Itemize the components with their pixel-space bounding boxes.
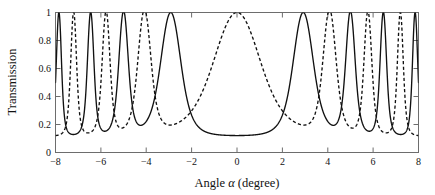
transmission-angle-figure: −8 −6 −4 −2 0 2 4 6 8 0 0.2 0.4 0.6 0.8 …: [0, 0, 435, 195]
y-tick-label: 0.6: [39, 63, 52, 74]
x-tick-label: 0: [235, 156, 240, 167]
x-tick-label: −6: [96, 156, 107, 167]
y-tick-label: 0.4: [39, 91, 52, 102]
x-tick-label: 8: [416, 156, 421, 167]
x-axis-title-suffix: (degree): [235, 176, 280, 190]
y-tick-label: 0.2: [39, 119, 52, 130]
y-tick-label: 0: [46, 147, 51, 158]
x-tick-label: −8: [50, 156, 61, 167]
transmission-chart: −8 −6 −4 −2 0 2 4 6 8 0 0.2 0.4 0.6 0.8 …: [0, 0, 435, 195]
x-tick-label: 4: [325, 156, 330, 167]
x-axis-title: Angle α (degree): [194, 176, 279, 190]
x-tick-label: −2: [186, 156, 197, 167]
x-tick-label: −4: [141, 156, 152, 167]
x-tick-label: 2: [280, 156, 285, 167]
x-axis-title-prefix: Angle: [194, 176, 228, 190]
y-tick-label: 1: [46, 7, 51, 18]
y-tick-label: 0.8: [39, 35, 52, 46]
y-axis-title: Transmission: [5, 48, 19, 116]
x-tick-label: 6: [371, 156, 376, 167]
